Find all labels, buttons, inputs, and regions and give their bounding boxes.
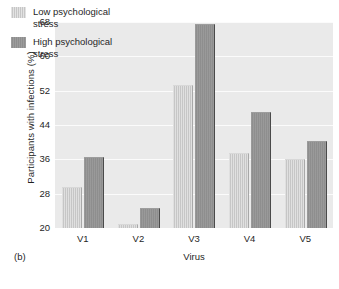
bar-group-v4: [222, 22, 278, 228]
bar-group-v5: [277, 22, 333, 228]
bar-chart-figure: Participants with infections (%) 2028364…: [0, 0, 339, 289]
bar-v1-low-stress: [62, 187, 82, 228]
bar-v4-low-stress: [229, 153, 249, 228]
bar-v1-high-stress: [84, 157, 104, 228]
x-axis-tick-label: V5: [285, 233, 325, 245]
x-axis-tick-label: V2: [118, 233, 158, 245]
bar-v4-high-stress: [251, 112, 271, 228]
bar-group-v3: [166, 22, 222, 228]
bar-v3-high-stress: [195, 24, 215, 228]
y-axis-tick-label: 28: [24, 189, 50, 199]
bar-v3-low-stress: [173, 85, 193, 228]
bar-v2-high-stress: [140, 208, 160, 228]
legend-swatch-high-stress: [11, 37, 26, 48]
x-axis-tick-label: V3: [174, 233, 214, 245]
bar-v2-low-stress: [118, 224, 138, 228]
y-axis-tick-label: 52: [24, 86, 50, 96]
legend-swatch-low-stress: [11, 7, 26, 18]
legend-entry-high-stress: High psychological stress: [11, 36, 161, 59]
bar-v5-low-stress: [285, 159, 305, 228]
x-axis-tick-label: V4: [230, 233, 270, 245]
bar-v5-high-stress: [307, 141, 327, 228]
y-axis-tick-label: 44: [24, 120, 50, 130]
x-axis-title: Virus: [55, 251, 333, 262]
legend: Low psychological stressHigh psychologic…: [11, 6, 161, 66]
x-axis-tick-labels: V1V2V3V4V5: [55, 233, 333, 247]
legend-entry-low-stress: Low psychological stress: [11, 6, 161, 29]
legend-label-high-stress: High psychological stress: [33, 36, 112, 59]
x-axis-tick-label: V1: [63, 233, 103, 245]
legend-label-low-stress: Low psychological stress: [33, 6, 110, 29]
panel-label: (b): [14, 251, 26, 262]
y-axis-tick-label: 20: [24, 223, 50, 233]
y-axis-tick-label: 36: [24, 155, 50, 165]
